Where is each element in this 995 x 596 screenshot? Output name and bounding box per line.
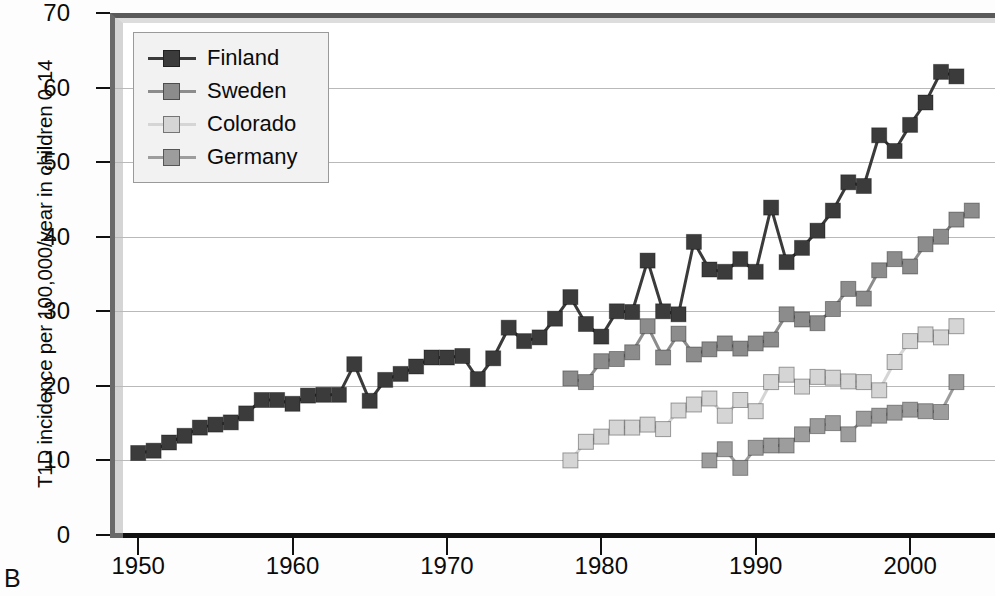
data-point-marker [856, 179, 871, 194]
chart-legend: Finland Sweden Colorado Germany [133, 32, 329, 183]
y-tick-mark [96, 87, 110, 89]
data-point-marker [563, 453, 578, 468]
legend-swatch-sweden [148, 81, 196, 101]
data-point-marker [903, 402, 918, 417]
data-point-marker [656, 350, 671, 365]
x-tick-label: 2000 [883, 552, 936, 580]
x-tick-label: 1960 [266, 552, 319, 580]
data-point-marker [594, 329, 609, 344]
data-point-marker [702, 262, 717, 277]
x-tick-mark [137, 538, 139, 555]
x-tick-mark [755, 538, 757, 555]
data-point-marker [316, 387, 331, 402]
y-tick-mark [96, 459, 110, 461]
data-point-marker [717, 264, 732, 279]
x-tick-mark [292, 538, 294, 555]
y-tick-label: 40 [24, 223, 70, 251]
legend-label-colorado: Colorado [207, 113, 296, 135]
x-tick-label: 1980 [575, 552, 628, 580]
legend-label-sweden: Sweden [207, 80, 287, 102]
data-point-marker [686, 397, 701, 412]
data-point-marker [795, 312, 810, 327]
data-point-marker [764, 438, 779, 453]
y-tick-label: 60 [24, 74, 70, 102]
data-point-marker [887, 252, 902, 267]
data-point-marker [733, 252, 748, 267]
data-point-marker [903, 259, 918, 274]
data-point-marker [609, 304, 624, 319]
data-point-marker [347, 357, 362, 372]
data-point-marker [748, 336, 763, 351]
data-point-marker [640, 319, 655, 334]
data-point-marker [779, 438, 794, 453]
data-point-marker [656, 422, 671, 437]
legend-marker-square-icon [163, 50, 180, 67]
data-point-marker [656, 304, 671, 319]
data-point-marker [393, 366, 408, 381]
series-sweden [563, 203, 979, 390]
y-tick-label: 20 [24, 372, 70, 400]
data-point-marker [872, 263, 887, 278]
x-tick-label: 1950 [111, 552, 164, 580]
data-point-marker [378, 372, 393, 387]
data-point-marker [779, 307, 794, 322]
data-point-marker [424, 350, 439, 365]
data-point-marker [192, 420, 207, 435]
data-point-marker [486, 351, 501, 366]
data-point-marker [177, 428, 192, 443]
data-point-marker [918, 327, 933, 342]
data-point-marker [825, 203, 840, 218]
data-point-marker [856, 291, 871, 306]
data-point-marker [918, 95, 933, 110]
data-point-marker [671, 307, 686, 322]
data-point-marker [640, 417, 655, 432]
data-point-marker [795, 427, 810, 442]
legend-swatch-finland [148, 48, 196, 68]
data-point-marker [779, 255, 794, 270]
data-point-marker [331, 387, 346, 402]
data-point-marker [764, 375, 779, 390]
data-point-marker [625, 420, 640, 435]
data-point-marker [810, 223, 825, 238]
data-point-marker [949, 319, 964, 334]
data-point-marker [841, 427, 856, 442]
data-point-marker [934, 229, 949, 244]
y-tick-label: 30 [24, 297, 70, 325]
data-point-marker [270, 393, 285, 408]
data-point-marker [362, 393, 377, 408]
data-point-marker [686, 347, 701, 362]
data-point-marker [285, 396, 300, 411]
data-point-marker [841, 281, 856, 296]
data-point-marker [918, 404, 933, 419]
data-point-marker [810, 316, 825, 331]
data-point-marker [764, 200, 779, 215]
data-point-marker [795, 379, 810, 394]
data-point-marker [563, 371, 578, 386]
data-point-marker [872, 408, 887, 423]
x-tick-label: 1970 [420, 552, 473, 580]
legend-item: Germany [134, 140, 328, 173]
data-point-marker [470, 372, 485, 387]
legend-swatch-germany [148, 147, 196, 167]
y-tick-mark [96, 385, 110, 387]
data-point-marker [254, 393, 269, 408]
data-point-marker [856, 375, 871, 390]
legend-marker-square-icon [163, 83, 180, 100]
data-point-marker [764, 332, 779, 347]
data-point-marker [903, 334, 918, 349]
data-point-marker [934, 64, 949, 79]
data-point-marker [455, 349, 470, 364]
data-point-marker [578, 434, 593, 449]
data-point-marker [779, 367, 794, 382]
y-tick-mark [96, 236, 110, 238]
data-point-marker [594, 429, 609, 444]
y-tick-mark [96, 310, 110, 312]
data-point-marker [625, 305, 640, 320]
data-point-marker [162, 435, 177, 450]
data-point-marker [964, 203, 979, 218]
legend-swatch-colorado [148, 114, 196, 134]
data-point-marker [825, 416, 840, 431]
data-point-marker [949, 375, 964, 390]
data-point-marker [301, 388, 316, 403]
data-point-marker [609, 420, 624, 435]
